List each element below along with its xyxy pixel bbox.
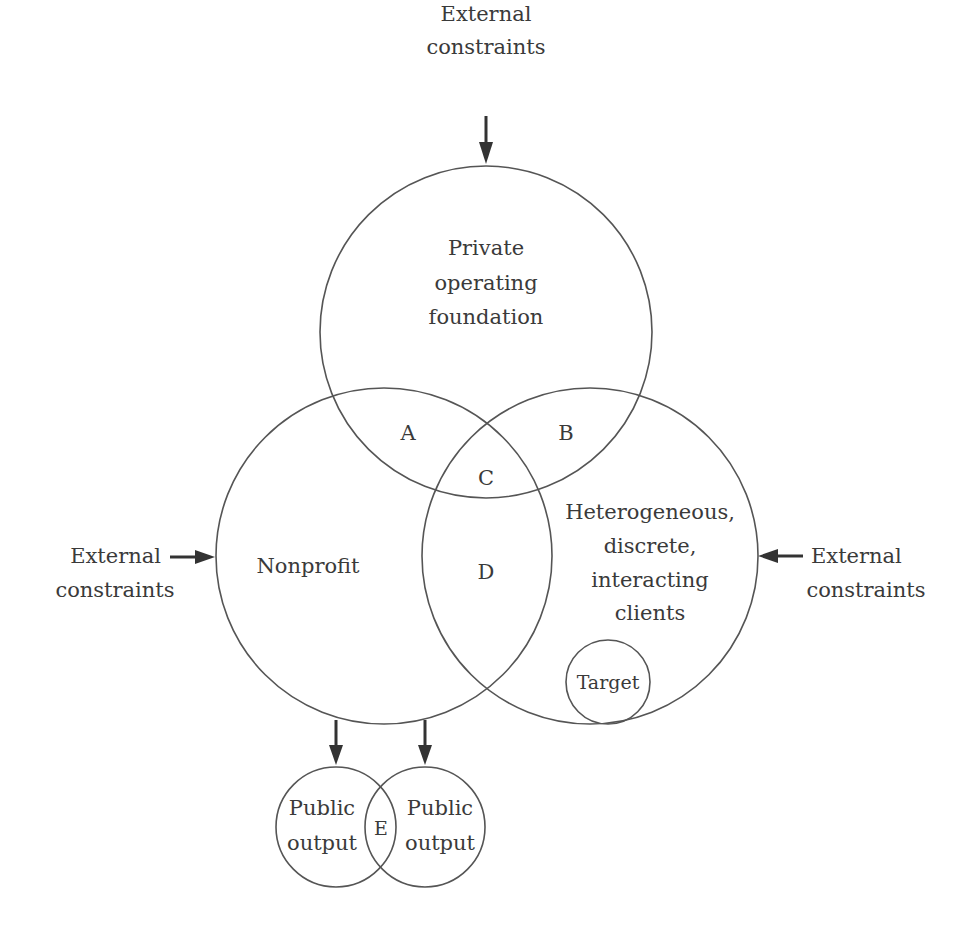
clients-line3: interacting xyxy=(591,568,709,592)
region-c: C xyxy=(478,466,494,490)
clients-line4: clients xyxy=(615,601,685,625)
private-foundation-line2: operating xyxy=(434,271,537,295)
arrow-head-down-output-right-icon xyxy=(418,745,432,765)
external-left-line1: External xyxy=(70,544,161,568)
clients-line2: discrete, xyxy=(604,534,697,558)
nonprofit-label: Nonprofit xyxy=(256,554,360,578)
arrow-head-right-icon xyxy=(195,550,215,564)
public-output-right-line1: Public xyxy=(407,796,473,820)
arrow-head-left-icon xyxy=(758,549,778,563)
external-right-line2: constraints xyxy=(806,578,925,602)
arrow-head-down-output-left-icon xyxy=(329,745,343,765)
public-output-left-line2: output xyxy=(287,831,358,855)
clients-line1: Heterogeneous, xyxy=(565,500,735,524)
target-label: Target xyxy=(577,671,640,693)
private-foundation-circle xyxy=(320,166,652,498)
region-e: E xyxy=(374,817,388,839)
region-b: B xyxy=(558,421,573,445)
external-constraints-top: External constraints xyxy=(426,2,545,164)
external-right-line1: External xyxy=(811,544,902,568)
private-foundation-line1: Private xyxy=(448,236,524,260)
private-foundation-line3: foundation xyxy=(429,305,544,329)
external-top-line1: External xyxy=(441,2,532,26)
public-output-left-line1: Public xyxy=(289,796,355,820)
region-a: A xyxy=(399,421,416,445)
external-left-line2: constraints xyxy=(55,578,174,602)
external-top-line2: constraints xyxy=(426,35,545,59)
arrow-head-down-top-icon xyxy=(479,142,493,164)
public-output-right-line2: output xyxy=(405,831,476,855)
venn-diagram: External constraints External constraint… xyxy=(0,0,970,932)
external-constraints-left: External constraints xyxy=(55,544,215,602)
region-d: D xyxy=(478,560,495,584)
external-constraints-right: External constraints xyxy=(758,544,926,602)
